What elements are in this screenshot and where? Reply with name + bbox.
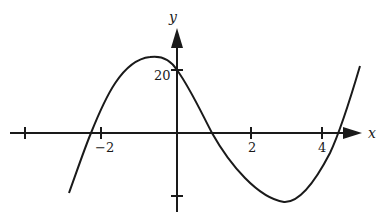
x-tick-label-neg2: −2	[95, 140, 114, 155]
y-axis-arrow-icon	[171, 28, 183, 48]
function-curve	[69, 57, 360, 202]
x-tick-label-4: 4	[318, 140, 326, 155]
function-graph: −2 2 4 20 x y	[0, 0, 386, 222]
y-axis-label: y	[168, 9, 178, 25]
x-axis-arrow-icon	[343, 127, 362, 139]
x-tick-label-2: 2	[248, 140, 256, 155]
x-axis-label: x	[368, 125, 376, 141]
y-tick-label-20: 20	[154, 68, 171, 83]
